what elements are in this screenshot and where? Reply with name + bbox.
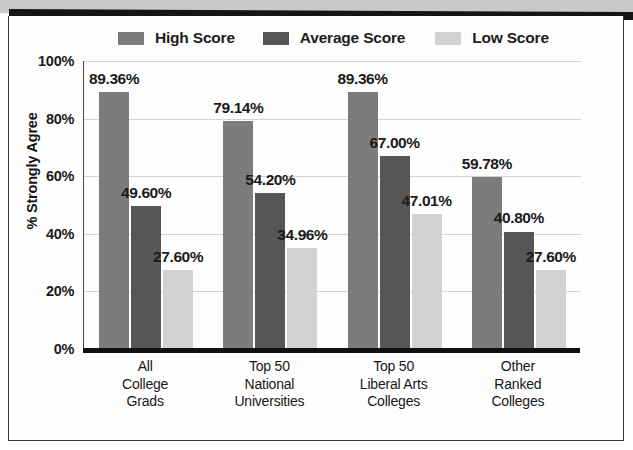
chart-legend: High Score Average Score Low Score [118,27,548,49]
plot-area: 89.36%49.60%27.60%79.14%54.20%34.96%89.3… [83,61,581,349]
legend-label-high-score: High Score [155,29,235,47]
bar[interactable] [380,156,410,349]
bar-value-label: 67.00% [370,134,420,152]
bar-value-label: 40.80% [494,209,544,227]
y-tick-label: 60% [14,168,74,184]
bar[interactable] [99,92,129,349]
category-label-line: Liberal Arts [360,376,428,394]
category-label: AllCollegeGrads [122,358,168,411]
category-label: Top 50NationalUniversities [234,358,304,411]
bar[interactable] [223,121,253,349]
legend-swatch-average-score [263,32,289,45]
gridline [84,119,581,120]
category-label-line: All [122,358,168,376]
legend-item-average-score[interactable]: Average Score [263,29,405,47]
category-label-line: National [234,376,304,394]
category-label-line: Colleges [360,393,428,411]
y-tick-label: 0% [14,341,74,357]
legend-label-low-score: Low Score [472,29,549,47]
bar-value-label: 79.14% [213,99,263,117]
y-tick-label: 40% [14,226,74,242]
category-label-line: Colleges [491,393,544,411]
bar[interactable] [472,177,502,349]
bar-value-label: 89.36% [338,70,388,88]
chart-screenshot: High Score Average Score Low Score % Str… [0,0,633,450]
legend-item-high-score[interactable]: High Score [118,29,235,47]
category-label-line: Universities [234,393,304,411]
bar[interactable] [287,248,317,349]
gridline [84,61,581,62]
bar-value-label: 49.60% [121,184,171,202]
bar[interactable] [412,214,442,349]
x-axis-category-labels: AllCollegeGradsTop 50NationalUniversitie… [83,358,580,428]
y-tick-label: 20% [14,283,74,299]
bar-value-label: 59.78% [462,155,512,173]
y-tick-label: 100% [14,53,74,69]
gridline [84,176,581,177]
legend-swatch-low-score [435,32,461,45]
bar-value-label: 34.96% [277,226,327,244]
category-label: Top 50Liberal ArtsColleges [360,358,428,411]
category-label-line: Grads [122,393,168,411]
category-label-line: Other [491,358,544,376]
category-label-line: Top 50 [360,358,428,376]
category-label-line: Top 50 [234,358,304,376]
legend-label-average-score: Average Score [300,29,405,47]
bar[interactable] [536,270,566,349]
bar-value-label: 27.60% [153,248,203,266]
bar[interactable] [255,193,285,349]
category-label-line: Ranked [491,376,544,394]
category-label: OtherRankedColleges [491,358,544,411]
y-tick-label: 80% [14,111,74,127]
legend-swatch-high-score [118,32,144,45]
bar[interactable] [163,270,193,349]
category-label-line: College [122,376,168,394]
bar[interactable] [131,206,161,349]
bar-value-label: 27.60% [526,248,576,266]
bar-value-label: 89.36% [89,70,139,88]
legend-item-low-score[interactable]: Low Score [435,29,549,47]
bar-value-label: 54.20% [245,171,295,189]
bar-value-label: 47.01% [402,192,452,210]
bar[interactable] [348,92,378,349]
x-axis-baseline [83,348,580,353]
